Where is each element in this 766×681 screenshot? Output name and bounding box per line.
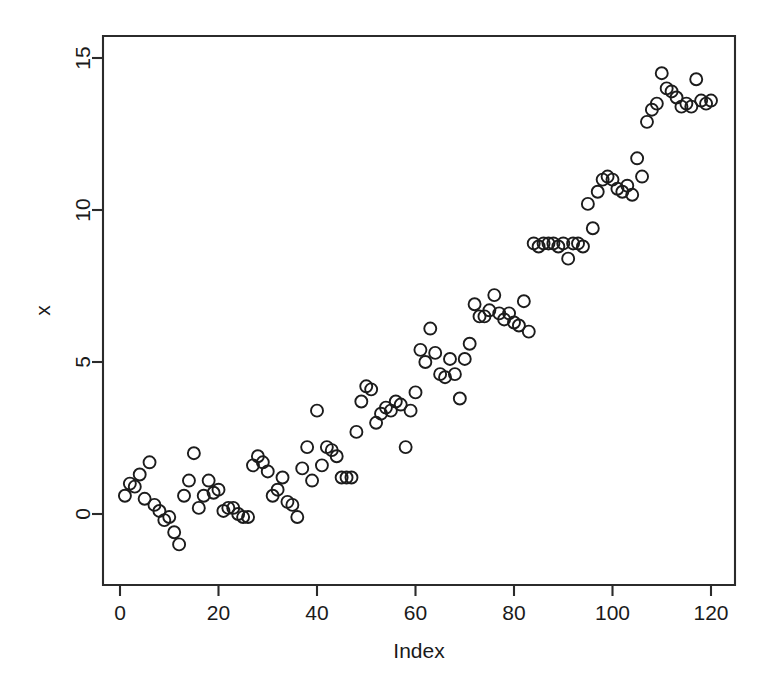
x-axis-title: Index [393, 639, 445, 662]
data-point [370, 417, 382, 429]
data-point [306, 475, 318, 487]
y-tick-label: 0 [71, 508, 94, 520]
data-point [296, 462, 308, 474]
data-point [134, 468, 146, 480]
data-point [592, 186, 604, 198]
data-point [173, 538, 185, 550]
data-point [444, 353, 456, 365]
data-point [582, 198, 594, 210]
data-point [168, 526, 180, 538]
data-point [301, 441, 313, 453]
plot-canvas: 020406080100120051015Indexx [0, 0, 766, 681]
data-point [469, 298, 481, 310]
data-point [410, 386, 422, 398]
data-point [277, 472, 289, 484]
data-point [454, 392, 466, 404]
x-tick-label: 80 [502, 601, 525, 624]
data-point [518, 295, 530, 307]
data-point [188, 447, 200, 459]
data-point-group [119, 67, 717, 550]
data-point [429, 347, 441, 359]
y-tick-label: 15 [71, 46, 94, 69]
data-point [641, 116, 653, 128]
data-point [488, 289, 500, 301]
data-point [311, 405, 323, 417]
x-tick-label: 40 [305, 601, 328, 624]
data-point [144, 456, 156, 468]
x-tick-label: 100 [595, 601, 630, 624]
data-point [690, 73, 702, 85]
data-point [656, 67, 668, 79]
data-point [193, 502, 205, 514]
data-point [262, 465, 274, 477]
data-point [636, 171, 648, 183]
data-point [350, 426, 362, 438]
x-tick-label: 120 [693, 601, 728, 624]
data-point [405, 405, 417, 417]
data-point [400, 441, 412, 453]
data-point [414, 344, 426, 356]
data-point [203, 475, 215, 487]
data-point [419, 356, 431, 368]
data-point [316, 459, 328, 471]
data-point [587, 222, 599, 234]
x-tick-label: 0 [114, 601, 126, 624]
data-point [178, 490, 190, 502]
x-tick-label: 20 [207, 601, 230, 624]
y-tick-label: 5 [71, 356, 94, 368]
data-point [119, 490, 131, 502]
data-point [183, 475, 195, 487]
data-point [631, 152, 643, 164]
scatter-plot-figure: 020406080100120051015Indexx [0, 0, 766, 681]
y-axis-title: x [31, 305, 54, 316]
data-point [562, 253, 574, 265]
y-tick-label: 10 [71, 198, 94, 221]
data-point [291, 511, 303, 523]
data-point [355, 396, 367, 408]
data-point [523, 326, 535, 338]
data-point [464, 338, 476, 350]
x-tick-label: 60 [404, 601, 427, 624]
data-point [459, 353, 471, 365]
data-point [424, 323, 436, 335]
